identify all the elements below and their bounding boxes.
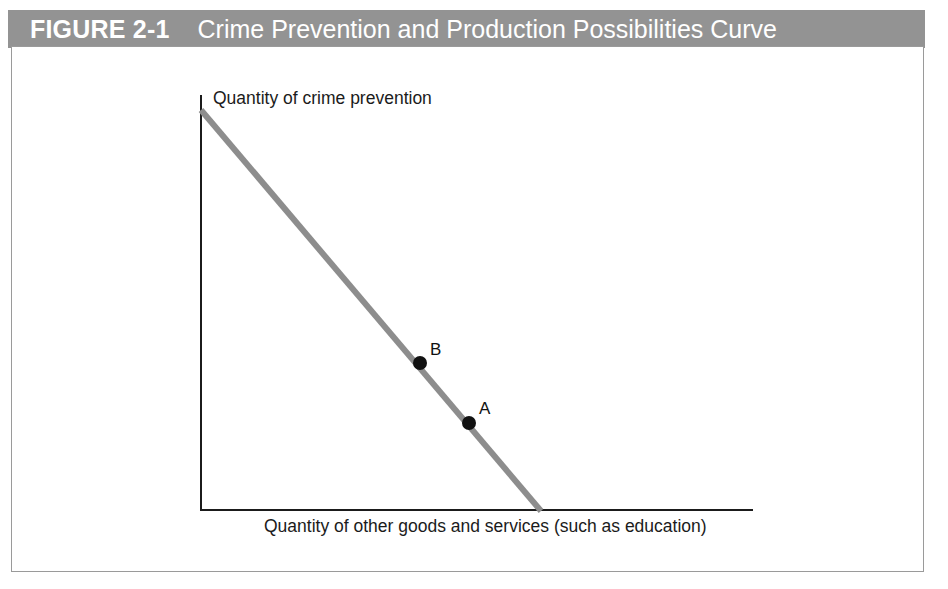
figure-number: FIGURE 2-1 xyxy=(30,17,170,42)
data-point-label-b: B xyxy=(430,341,441,358)
figure-frame xyxy=(11,46,924,572)
figure-container: FIGURE 2-1 Crime Prevention and Producti… xyxy=(0,0,948,589)
figure-header-band: FIGURE 2-1 Crime Prevention and Producti… xyxy=(8,10,925,48)
y-axis-label: Quantity of crime prevention xyxy=(213,90,432,108)
data-point-label-a: A xyxy=(479,400,490,417)
figure-title: Crime Prevention and Production Possibil… xyxy=(198,17,777,42)
x-axis-label: Quantity of other goods and services (su… xyxy=(264,518,707,536)
